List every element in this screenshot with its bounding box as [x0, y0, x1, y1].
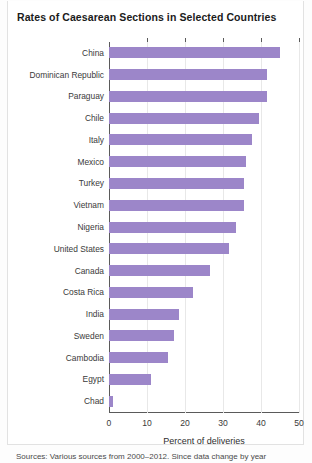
x-tick-mark [299, 38, 300, 42]
bar-row: China [109, 42, 299, 64]
category-label: United States [54, 244, 104, 254]
category-label: Dominican Republic [30, 70, 104, 80]
category-label: Vietnam [73, 200, 104, 210]
bar [109, 330, 174, 341]
chart-panel: Rates of Caesarean Sections in Selected … [7, 1, 304, 445]
bar [109, 265, 210, 276]
x-tick-label: 50 [294, 418, 304, 428]
x-tick-label: 40 [256, 418, 266, 428]
gridline [299, 42, 300, 413]
plot-area: ChinaDominican RepublicParaguayChileItal… [109, 42, 299, 413]
bar-row: Chad [109, 390, 299, 412]
bar [109, 374, 151, 385]
bar [109, 352, 168, 363]
bar [109, 222, 236, 233]
bar [109, 243, 229, 254]
x-axis-line [109, 412, 299, 413]
category-label: Turkey [79, 178, 104, 188]
chart-screenshot: Rates of Caesarean Sections in Selected … [0, 0, 312, 463]
category-label: Sweden [74, 331, 104, 341]
bar-row: United States [109, 238, 299, 260]
bar-row: Vietnam [109, 194, 299, 216]
bar-row: Dominican Republic [109, 64, 299, 86]
category-label: Nigeria [77, 222, 104, 232]
bar-row: Chile [109, 107, 299, 129]
bar [109, 69, 267, 80]
bar-row: Egypt [109, 368, 299, 390]
bar-row: Turkey [109, 173, 299, 195]
category-label: China [82, 48, 104, 58]
bar-row: Mexico [109, 151, 299, 173]
bar-row: Sweden [109, 325, 299, 347]
category-label: Mexico [77, 157, 104, 167]
bar [109, 134, 252, 145]
bar [109, 91, 267, 102]
bar [109, 113, 259, 124]
chart-title: Rates of Caesarean Sections in Selected … [17, 11, 276, 23]
category-label: India [86, 309, 104, 319]
bar [109, 178, 244, 189]
category-label: Cambodia [66, 353, 104, 363]
bar [109, 309, 179, 320]
category-label: Egypt [83, 374, 104, 384]
chart-footnote: Sources: Various sources from 2000–2012.… [16, 452, 306, 462]
category-label: Canada [75, 266, 104, 276]
bar [109, 156, 246, 167]
bar-row: Paraguay [109, 86, 299, 108]
bar-row: Canada [109, 260, 299, 282]
bar [109, 47, 280, 58]
category-label: Chad [84, 396, 104, 406]
bar-row: India [109, 303, 299, 325]
category-label: Costa Rica [63, 287, 104, 297]
bar-row: Costa Rica [109, 281, 299, 303]
bar [109, 200, 244, 211]
category-label: Paraguay [68, 91, 104, 101]
category-label: Italy [89, 135, 104, 145]
bar [109, 396, 113, 407]
bar-rows: ChinaDominican RepublicParaguayChileItal… [109, 42, 299, 412]
x-tick-label: 30 [218, 418, 228, 428]
bar-row: Italy [109, 129, 299, 151]
bar-row: Nigeria [109, 216, 299, 238]
x-tick-label: 20 [180, 418, 190, 428]
x-tick-label: 10 [142, 418, 152, 428]
x-axis-title: Percent of deliveries [163, 436, 245, 446]
category-label: Chile [85, 113, 104, 123]
bar-row: Cambodia [109, 347, 299, 369]
bar [109, 287, 193, 298]
x-tick-label: 0 [107, 418, 112, 428]
